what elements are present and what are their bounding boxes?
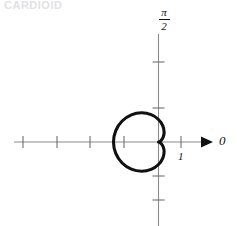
polar-axis-label: 0 xyxy=(219,134,226,147)
two-denominator: 2 xyxy=(155,21,173,32)
unit-tick-label: 1 xyxy=(178,151,184,162)
pi-numerator: π xyxy=(155,7,173,18)
polar-cardioid-figure xyxy=(0,0,237,226)
polar-axis-arrowhead xyxy=(201,137,213,148)
vertical-axis-label: π 2 xyxy=(155,7,173,32)
